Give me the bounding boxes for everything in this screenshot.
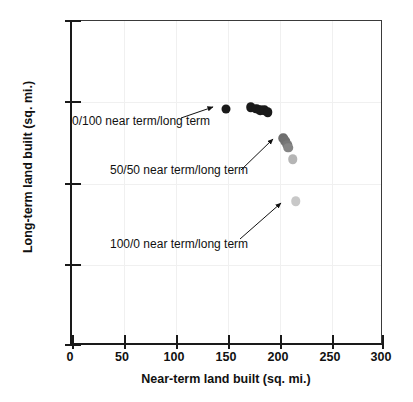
y-axis-title: Long-term land built (sq. mi.): [21, 47, 35, 287]
gridline-x-50: [124, 21, 125, 343]
x-axis-title: Near-term land built (sq. mi.): [70, 372, 382, 386]
annotation-label-0-100: 0/100 near term/long term: [72, 114, 210, 128]
plot-area: [70, 20, 382, 345]
scatter-chart-figure: Long-term land built (sq. mi.) 750 700 6…: [0, 0, 413, 402]
data-point: [291, 197, 301, 207]
gridline-y-650: [72, 184, 381, 185]
x-tick-label-150: 150: [216, 350, 237, 364]
annotation-label-100-0: 100/0 near term/long term: [110, 237, 248, 251]
x-tick-label-0: 0: [67, 350, 74, 364]
clipped-caption: [0, 392, 413, 402]
gridline-x-250: [332, 21, 333, 343]
x-tick-mark-0: [72, 335, 74, 349]
gridline-x-200: [280, 21, 281, 343]
x-tick-mark-100: [176, 335, 178, 349]
gridline-y-600: [72, 265, 381, 266]
y-tick-mark-750: [65, 20, 81, 22]
x-tick-mark-150: [228, 335, 230, 349]
y-tick-mark-600: [65, 264, 81, 266]
data-point: [284, 143, 294, 153]
data-point: [288, 154, 298, 164]
x-tick-label-100: 100: [164, 350, 185, 364]
x-tick-label-200: 200: [268, 350, 289, 364]
gridline-x-100: [176, 21, 177, 343]
x-tick-mark-250: [332, 335, 334, 349]
y-tick-mark-700: [65, 101, 81, 103]
gridline-x-150: [228, 21, 229, 343]
x-tick-mark-200: [280, 335, 282, 349]
x-tick-label-250: 250: [320, 350, 341, 364]
x-tick-label-300: 300: [371, 350, 392, 364]
y-tick-mark-650: [65, 183, 81, 185]
annotation-label-50-50: 50/50 near term/long term: [110, 163, 248, 177]
data-point: [221, 104, 230, 113]
x-tick-mark-300: [382, 335, 384, 349]
x-tick-label-50: 50: [115, 350, 129, 364]
gridline-y-700: [72, 102, 381, 103]
x-tick-mark-50: [124, 335, 126, 349]
data-point: [263, 107, 273, 117]
